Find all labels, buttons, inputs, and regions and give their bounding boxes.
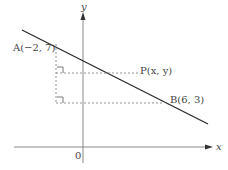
y-axis-arrow-icon (81, 12, 86, 20)
x-axis-label: x (216, 141, 222, 152)
x-axis-arrow-icon (205, 145, 213, 150)
right-angle-marker-p (57, 67, 63, 73)
coordinate-diagram: y x 0 A(−2, 7) P(x, y) B(6, 3) (0, 0, 228, 170)
point-a-label: A(−2, 7) (12, 42, 56, 53)
y-axis-label: y (80, 1, 87, 12)
point-p-label: P(x, y) (140, 65, 172, 76)
right-angle-marker-b (57, 97, 63, 103)
point-b-label: B(6, 3) (170, 94, 204, 105)
origin-label: 0 (75, 150, 81, 161)
